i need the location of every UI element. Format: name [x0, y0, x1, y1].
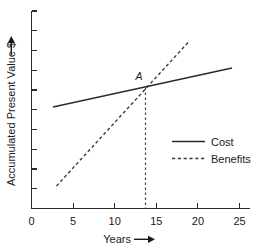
annotation-label-a: A	[134, 70, 142, 82]
x-tick-label-0: 0	[28, 215, 34, 227]
x-axis-title-arrow-icon	[134, 236, 155, 243]
x-axis-ticks	[32, 203, 240, 209]
x-tick-label-5: 5	[70, 215, 76, 227]
x-axis-title: Years	[103, 233, 131, 245]
x-tick-label-25: 25	[233, 215, 245, 227]
chart-container: 0 5 10 15 20 25 Years Accumulated Presen…	[0, 0, 258, 250]
chart-legend: Cost Benefits	[172, 136, 251, 165]
x-tick-label-10: 10	[109, 215, 121, 227]
y-axis-title: Accumulated Present Value $	[5, 42, 17, 186]
y-axis-ticks	[32, 11, 38, 209]
legend-label-cost: Cost	[211, 136, 234, 148]
series-line-benefits	[57, 42, 189, 186]
x-tick-label-20: 20	[192, 215, 204, 227]
chart-plot-area: 0 5 10 15 20 25 Years Accumulated Presen…	[0, 0, 258, 250]
x-tick-label-15: 15	[150, 215, 162, 227]
legend-label-benefits: Benefits	[211, 153, 251, 165]
